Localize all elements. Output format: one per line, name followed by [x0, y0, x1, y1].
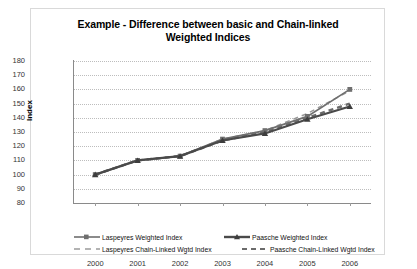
legend-swatch-laspeyres-weighted	[74, 233, 100, 241]
y-axis-tick-label: 180	[0, 56, 25, 65]
legend-label-laspeyres-chain-linked: Laspeyres Chain-Linked Wgtd Index	[102, 246, 212, 253]
legend-row-1: Laspeyres Weighted Index Paasche Weighte…	[74, 231, 394, 243]
legend-swatch-paasche-weighted	[224, 233, 250, 241]
y-axis-tick-label: 110	[0, 155, 25, 164]
x-axis-tick-mark	[223, 203, 224, 206]
x-axis-tick-mark	[95, 203, 96, 206]
chart-title-line-2: Weighted Indices	[57, 31, 359, 44]
legend-label-paasche-weighted: Paasche Weighted Index	[252, 234, 327, 241]
legend-item-paasche-weighted: Paasche Weighted Index	[224, 233, 327, 241]
chart-frame: Example - Difference between basic and C…	[30, 8, 385, 255]
x-axis-tick-mark	[307, 203, 308, 206]
legend-label-laspeyres-weighted: Laspeyres Weighted Index	[102, 234, 182, 241]
legend-item-paasche-chain-linked: Paasche Chain-Linked Wgtd Index	[242, 245, 375, 253]
series-layer	[74, 61, 371, 203]
x-axis-tick-label: 2003	[201, 259, 245, 268]
y-axis-tick-label: 130	[0, 127, 25, 136]
y-axis-tick-label: 100	[0, 170, 25, 179]
y-axis-tick-label: 170	[0, 70, 25, 79]
x-axis-tick-mark	[265, 203, 266, 206]
y-axis-tick-label: 80	[0, 198, 25, 207]
legend-swatch-laspeyres-chain-linked	[74, 245, 100, 253]
x-axis-tick-mark	[180, 203, 181, 206]
y-axis-tick-label: 150	[0, 99, 25, 108]
x-axis-tick-mark	[138, 203, 139, 206]
y-axis-tick-label: 120	[0, 141, 25, 150]
chart-legend: Laspeyres Weighted Index Paasche Weighte…	[74, 231, 394, 255]
y-axis-tick-label: 90	[0, 184, 25, 193]
legend-label-paasche-chain-linked: Paasche Chain-Linked Wgtd Index	[270, 246, 375, 253]
x-axis-tick-label: 2001	[116, 259, 160, 268]
x-axis-tick-mark	[350, 203, 351, 206]
legend-item-laspeyres-weighted: Laspeyres Weighted Index	[74, 233, 224, 241]
y-axis-tick-label: 140	[0, 113, 25, 122]
x-axis-tick-label: 2005	[285, 259, 329, 268]
x-axis-tick-label: 2004	[243, 259, 287, 268]
legend-row-2: Laspeyres Chain-Linked Wgtd Index Paasch…	[74, 243, 394, 255]
legend-swatch-paasche-chain-linked	[242, 245, 268, 253]
y-axis-tick-label: 160	[0, 84, 25, 93]
data-point-marker	[347, 87, 352, 92]
x-axis-tick-label: 2006	[328, 259, 372, 268]
plot-area: 1801701601501401301201101009080200020012…	[74, 61, 371, 203]
series-svg	[74, 61, 371, 203]
y-axis-label: Index	[25, 100, 34, 121]
chart-title: Example - Difference between basic and C…	[57, 18, 359, 44]
legend-item-laspeyres-chain-linked: Laspeyres Chain-Linked Wgtd Index	[74, 245, 242, 253]
x-axis-tick-label: 2000	[73, 259, 117, 268]
x-axis-tick-label: 2002	[158, 259, 202, 268]
chart-title-line-1: Example - Difference between basic and C…	[57, 18, 359, 31]
